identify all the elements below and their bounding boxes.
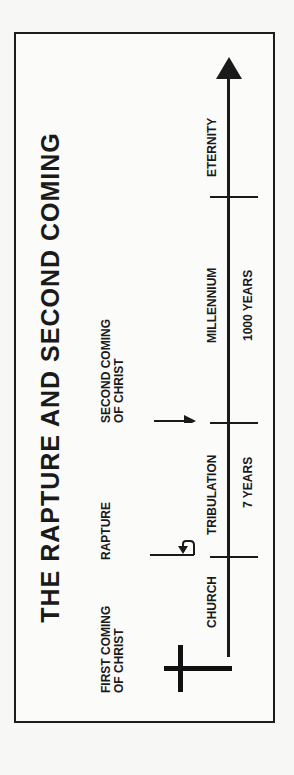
label-rapture: RAPTURE <box>100 502 113 560</box>
timeline-axis <box>227 77 230 657</box>
tick-church-tribulation <box>210 556 258 558</box>
label-second-coming: SECOND COMING OF CHRIST <box>100 319 126 423</box>
period-millennium: MILLENNIUM <box>206 268 219 343</box>
arrowhead-icon <box>216 57 242 79</box>
down-arrow-icon <box>152 383 200 423</box>
cross-icon <box>164 666 232 671</box>
period-eternity: ETERNITY <box>206 118 219 177</box>
tick-tribulation-millennium <box>210 422 258 424</box>
upturn-arrow-icon <box>148 509 210 557</box>
diagram-stage: THE RAPTURE AND SECOND COMING FIRST COMI… <box>14 32 275 723</box>
cross-icon-bar <box>178 645 183 692</box>
tick-millennium-eternity <box>210 196 258 198</box>
label-first-coming: FIRST COMING OF CHRIST <box>100 606 126 693</box>
label-first-coming-line2: OF CHRIST <box>113 606 126 693</box>
period-tribulation: TRIBULATION <box>206 455 219 535</box>
label-second-coming-line2: OF CHRIST <box>113 319 126 423</box>
duration-millennium: 1000 YEARS <box>242 270 255 341</box>
diagram-title: THE RAPTURE AND SECOND COMING <box>36 32 65 723</box>
period-church: CHURCH <box>206 576 219 628</box>
duration-tribulation: 7 YEARS <box>242 457 255 508</box>
